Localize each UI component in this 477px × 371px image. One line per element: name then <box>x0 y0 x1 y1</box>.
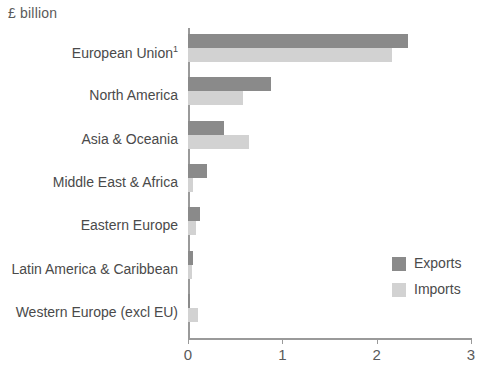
bar-imports <box>188 178 193 192</box>
bar-imports <box>188 135 249 149</box>
bar-exports <box>188 34 408 48</box>
legend-swatch-exports-icon <box>392 257 406 271</box>
x-axis-tick <box>377 338 378 344</box>
bar-imports <box>188 308 198 322</box>
unit-label: £ billion <box>8 5 57 21</box>
bar-exports <box>188 294 190 308</box>
bar-exports <box>188 251 193 265</box>
footnote-marker: 1 <box>173 44 178 54</box>
legend-label-exports: Exports <box>414 255 461 271</box>
category-label: Asia & Oceania <box>0 131 184 147</box>
bar-exports <box>188 164 207 178</box>
x-axis-tick <box>471 338 472 344</box>
category-label: Western Europe (excl EU) <box>0 304 184 320</box>
category-label: Middle East & Africa <box>0 174 184 190</box>
bar-imports <box>188 221 196 235</box>
x-axis-tick <box>188 338 189 344</box>
x-axis-tick-label: 3 <box>467 346 475 363</box>
x-axis-tick <box>282 338 283 344</box>
bar-exports <box>188 207 200 221</box>
x-axis-tick-label: 2 <box>372 346 380 363</box>
bar-exports <box>188 77 271 91</box>
legend-label-imports: Imports <box>414 281 461 297</box>
category-label: North America <box>0 87 184 103</box>
x-axis-tick-label: 1 <box>278 346 286 363</box>
bar-imports <box>188 48 392 62</box>
legend-swatch-imports-icon <box>392 283 406 297</box>
category-label: European Union1 <box>0 44 184 61</box>
x-axis-line <box>188 338 471 340</box>
bar-chart: £ billion 0123 European Union1North Amer… <box>0 0 477 371</box>
bar-exports <box>188 121 224 135</box>
bar-imports <box>188 265 192 279</box>
category-label: Latin America & Caribbean <box>0 261 184 277</box>
x-axis-tick-label: 0 <box>184 346 192 363</box>
category-label: Eastern Europe <box>0 217 184 233</box>
bar-imports <box>188 91 243 105</box>
